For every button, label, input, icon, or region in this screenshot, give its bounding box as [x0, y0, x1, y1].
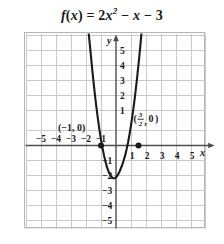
x-axis-tick-labels: −5 −4 −3 −2 −1 1 2 3 4 5	[36, 134, 195, 161]
frac-label-comma: ,	[144, 116, 147, 127]
frac-numerator: 3	[138, 111, 143, 119]
point-label-minus1-close: )	[82, 122, 85, 134]
point-marker-minus1-0	[98, 143, 104, 149]
x-tick-3: 3	[160, 151, 165, 161]
x-tick-minus-5: −5	[36, 134, 46, 144]
y-tick-minus-3: −3	[102, 186, 112, 196]
x-tick-minus-2: −2	[81, 134, 91, 144]
x-tick-2: 2	[145, 151, 150, 161]
x-tick-minus-3: −3	[66, 134, 76, 144]
y-tick-2: 2	[120, 91, 125, 101]
x-tick-minus-4: −4	[51, 134, 61, 144]
plot-area: y x 5 4 3 2 1 −1 −2 −3 −4 −5 −5 −4 −3	[24, 32, 205, 228]
x-tick-4: 4	[175, 151, 180, 161]
y-tick-3: 3	[120, 76, 125, 86]
graph-figure: f(x) = 2x2 − x − 3	[0, 0, 224, 244]
x-tick-1: 1	[130, 151, 135, 161]
frac-label-paren-close: )	[155, 113, 158, 125]
frac-label-y: 0	[149, 113, 154, 124]
x-tick-5: 5	[190, 151, 195, 161]
axis-arrowheads	[113, 35, 214, 149]
graph-canvas: y x 5 4 3 2 1 −1 −2 −3 −4 −5 −5 −4 −3	[1, 1, 224, 244]
y-tick-1: 1	[120, 106, 125, 116]
point-label-minus1-x: −1	[61, 122, 72, 133]
frac-label-paren-open: (	[134, 113, 138, 125]
x-axis-label: x	[199, 147, 205, 158]
y-tick-5: 5	[120, 46, 125, 56]
point-label-minus1-0: (−1, 0)	[58, 122, 85, 134]
y-tick-minus-5: −5	[102, 216, 112, 226]
point-marker-three-halves-0	[136, 143, 142, 149]
y-tick-4: 4	[120, 61, 125, 71]
frac-denominator: 2	[138, 120, 143, 128]
y-tick-minus-4: −4	[102, 201, 112, 211]
y-axis-label: y	[106, 35, 112, 46]
x-axis-arrow	[208, 143, 214, 149]
